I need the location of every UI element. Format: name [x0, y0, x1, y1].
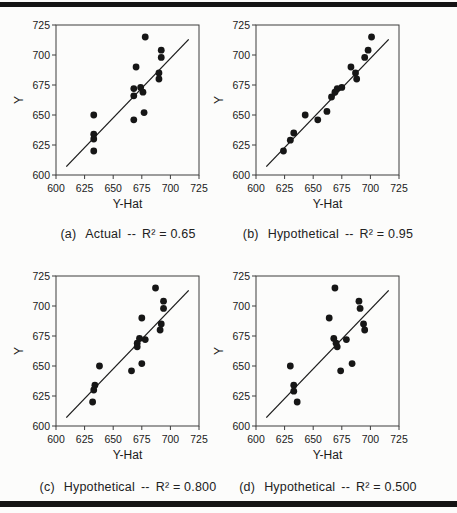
- x-tick-label: 650: [304, 433, 322, 445]
- caption-c-index: (c): [40, 480, 55, 494]
- y-tick-label: 700: [232, 300, 250, 312]
- data-point: [361, 327, 368, 334]
- caption-b-dashes: --: [345, 227, 354, 241]
- fit-line: [266, 290, 388, 417]
- y-tick-label: 625: [32, 390, 50, 402]
- x-tick-label: 600: [247, 433, 265, 445]
- scatter-plot-b: 600625650675700725600625650675700725Y-Ha…: [208, 12, 420, 218]
- data-point: [349, 360, 356, 367]
- y-tick-label: 700: [32, 49, 50, 61]
- data-point: [365, 47, 372, 54]
- data-point: [136, 335, 143, 342]
- x-axis-title: Y-Hat: [313, 197, 343, 211]
- bottom-horizontal-rule: [0, 501, 457, 507]
- scatter-plot-a: 600625650675700725600625650675700725Y-Ha…: [8, 12, 220, 218]
- caption-d-r2: R² = 0.500: [356, 480, 417, 494]
- data-point: [90, 136, 97, 143]
- x-tick-label: 700: [362, 182, 380, 194]
- data-point: [158, 47, 165, 54]
- x-tick-label: 600: [47, 433, 65, 445]
- x-tick-label: 675: [133, 182, 151, 194]
- caption-d-index: (d): [239, 480, 255, 494]
- y-tick-label: 725: [232, 270, 250, 282]
- data-point: [96, 363, 103, 370]
- plot-frame: [256, 276, 399, 426]
- top-horizontal-rule: [0, 2, 457, 7]
- y-tick-label: 600: [32, 169, 50, 181]
- fit-line: [66, 290, 188, 417]
- x-tick-label: 650: [104, 433, 122, 445]
- data-point: [90, 387, 97, 394]
- data-point: [314, 116, 321, 123]
- data-point: [360, 321, 367, 328]
- data-point: [130, 92, 137, 99]
- data-point: [294, 399, 301, 406]
- caption-d: (d) Hypothetical -- R² = 0.500: [216, 480, 440, 494]
- x-tick-label: 600: [47, 182, 65, 194]
- data-point: [357, 305, 364, 312]
- data-point: [90, 148, 97, 155]
- y-tick-label: 675: [32, 79, 50, 91]
- x-tick-label: 600: [247, 182, 265, 194]
- data-point: [290, 388, 297, 395]
- plot-frame: [56, 25, 199, 175]
- fit-line: [266, 39, 388, 166]
- caption-b-index: (b): [243, 227, 259, 241]
- fit-line: [66, 39, 188, 166]
- y-tick-label: 600: [232, 420, 250, 432]
- caption-d-dashes: --: [341, 480, 350, 494]
- data-point: [158, 321, 165, 328]
- data-point: [337, 367, 344, 374]
- y-axis-title: Y: [12, 347, 26, 355]
- data-point: [324, 108, 331, 115]
- y-tick-label: 650: [232, 109, 250, 121]
- caption-b: (b) Hypothetical -- R² = 0.95: [216, 227, 440, 241]
- caption-b-r2: R² = 0.95: [360, 227, 414, 241]
- y-tick-label: 700: [32, 300, 50, 312]
- data-point: [89, 399, 96, 406]
- data-point: [158, 54, 165, 61]
- x-tick-label: 700: [162, 433, 180, 445]
- x-tick-label: 675: [333, 182, 351, 194]
- scatter-plot-d: 600625650675700725600625650675700725Y-Ha…: [208, 263, 420, 469]
- data-point: [290, 382, 297, 389]
- x-tick-label: 700: [362, 433, 380, 445]
- caption-c-dashes: --: [141, 480, 150, 494]
- caption-b-title: Hypothetical: [268, 227, 339, 241]
- data-point: [142, 34, 149, 41]
- y-tick-label: 700: [232, 49, 250, 61]
- data-point: [368, 34, 375, 41]
- data-point: [130, 116, 137, 123]
- y-tick-label: 600: [32, 420, 50, 432]
- x-tick-label: 625: [276, 182, 294, 194]
- data-point: [157, 327, 164, 334]
- x-axis-title: Y-Hat: [113, 448, 143, 462]
- y-axis-title: Y: [212, 347, 226, 355]
- y-tick-label: 725: [232, 19, 250, 31]
- data-point: [332, 285, 339, 292]
- y-axis-title: Y: [212, 96, 226, 104]
- data-point: [142, 336, 149, 343]
- scatter-plot-c: 600625650675700725600625650675700725Y-Ha…: [8, 263, 220, 469]
- x-axis-title: Y-Hat: [313, 448, 343, 462]
- y-tick-label: 675: [232, 330, 250, 342]
- caption-c-title: Hypothetical: [64, 480, 135, 494]
- data-point: [287, 137, 294, 144]
- x-tick-label: 725: [390, 182, 408, 194]
- x-tick-label: 725: [390, 433, 408, 445]
- x-tick-label: 625: [276, 433, 294, 445]
- y-tick-label: 650: [232, 360, 250, 372]
- data-point: [128, 367, 135, 374]
- x-tick-label: 625: [76, 182, 94, 194]
- data-point: [138, 360, 145, 367]
- x-tick-label: 700: [162, 182, 180, 194]
- y-tick-label: 600: [232, 169, 250, 181]
- data-point: [141, 109, 148, 116]
- data-point: [343, 336, 350, 343]
- data-point: [338, 84, 345, 91]
- x-tick-label: 675: [133, 433, 151, 445]
- plot-frame: [256, 25, 399, 175]
- data-point: [348, 64, 355, 71]
- data-point: [140, 89, 147, 96]
- caption-c-r2: R² = 0.800: [156, 480, 217, 494]
